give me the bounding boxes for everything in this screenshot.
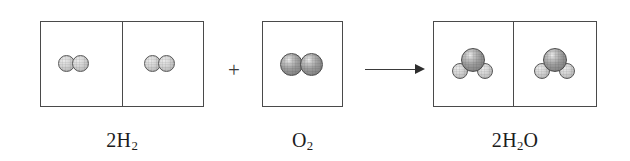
hydrogen-cell-1 — [41, 22, 122, 106]
reaction-arrow-icon — [365, 64, 425, 76]
plus-icon: + — [226, 60, 242, 81]
water-label-suffix: O — [523, 129, 538, 151]
oxygen-label-subscript: 2 — [307, 139, 313, 153]
hydrogen-atom — [158, 55, 175, 72]
water-cell-1 — [434, 22, 513, 106]
hydrogen-label: 2H2 — [40, 130, 204, 153]
water-cell-2 — [513, 22, 598, 106]
oxygen-cell-1 — [263, 22, 344, 106]
hydrogen-atom — [72, 55, 89, 72]
oxygen-label-element: O — [292, 129, 307, 151]
hydrogen-label-subscript: 2 — [131, 139, 137, 153]
hydrogen-cell-2 — [122, 22, 205, 106]
water-container-box — [433, 21, 597, 107]
oxygen-atom — [300, 53, 323, 76]
oxygen-container-box — [262, 21, 343, 107]
hydrogen-container-box — [40, 21, 204, 107]
reaction-diagram: 2H2 + O2 2H2O — [0, 0, 630, 161]
oxygen-label: O2 — [262, 130, 343, 153]
hydrogen-label-coefficient: 2 — [106, 129, 116, 151]
oxygen-atom — [461, 48, 485, 72]
water-label: 2H2O — [433, 130, 597, 153]
oxygen-atom — [543, 48, 567, 72]
water-label-coefficient: 2 — [492, 129, 502, 151]
arrow-head — [415, 64, 425, 74]
arrow-shaft — [365, 69, 417, 70]
hydrogen-label-element: H — [117, 129, 132, 151]
water-label-element: H — [502, 129, 517, 151]
